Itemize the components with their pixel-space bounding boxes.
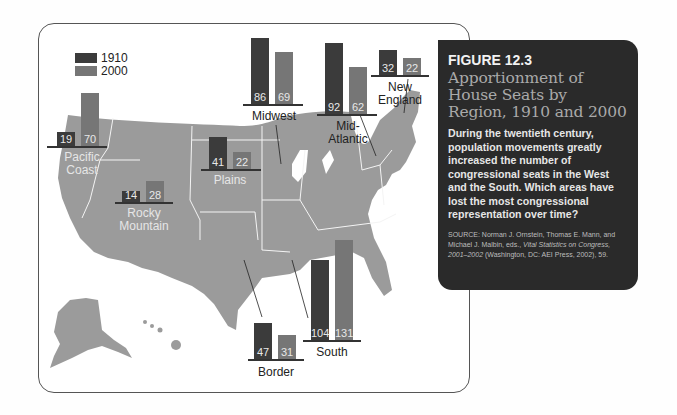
legend-label-2000: 2000 [101, 64, 128, 78]
region-label: Midwest [243, 110, 305, 123]
figure-description: During the twentieth century, population… [448, 127, 628, 222]
bar-south-2000: 131 [335, 240, 353, 340]
region-label: Border [245, 366, 307, 379]
bar-plains-2000: 22 [233, 152, 251, 169]
baseline [47, 146, 107, 148]
figure-title: Apportionment of House Seats by Region, … [448, 70, 628, 121]
legend-label-1910: 1910 [101, 51, 128, 65]
baseline [201, 169, 261, 171]
bar-midatlantic-1910: 92 [325, 43, 343, 114]
bar-south-1910: 104 [311, 260, 329, 340]
figure-source: SOURCE: Norman J. Ornstein, Thomas E. Ma… [448, 230, 628, 260]
bar-border-2000: 31 [278, 335, 296, 359]
baseline [303, 340, 361, 342]
legend-swatch-1910 [75, 53, 97, 63]
region-label: PacificCoast [52, 151, 112, 177]
bar-pacific-1910: 19 [57, 132, 75, 146]
bar-plains-1910: 41 [209, 137, 227, 169]
bar-pacific-2000: 70 [81, 93, 99, 146]
figure-number: FIGURE 12.3 [448, 52, 628, 68]
legend-item-1910: 1910 [75, 51, 128, 64]
bar-newengland-2000: 22 [403, 58, 421, 75]
bar-newengland-1910: 32 [379, 50, 397, 75]
baseline [115, 202, 173, 204]
legend-item-2000: 2000 [75, 64, 128, 77]
region-label: South [302, 346, 362, 359]
bar-rocky-1910: 14 [122, 191, 140, 202]
bar-midwest-1910: 86 [251, 38, 269, 104]
chart-legend: 1910 2000 [75, 51, 128, 77]
bar-midatlantic-2000: 62 [349, 67, 367, 114]
bar-border-1910: 47 [254, 323, 272, 359]
figure-caption-card: FIGURE 12.3 Apportionment of House Seats… [438, 40, 638, 290]
legend-swatch-2000 [75, 66, 97, 76]
baseline [243, 104, 303, 106]
bar-rocky-2000: 28 [146, 181, 164, 202]
region-label: NewEngland [370, 81, 430, 107]
baseline [248, 359, 304, 361]
region-label: Plains [200, 174, 260, 187]
region-label: Mid-Atlantic [318, 120, 378, 146]
baseline [371, 75, 429, 77]
baseline [317, 114, 377, 116]
region-label: RockyMountain [114, 207, 174, 233]
bar-midwest-2000: 69 [275, 52, 293, 104]
